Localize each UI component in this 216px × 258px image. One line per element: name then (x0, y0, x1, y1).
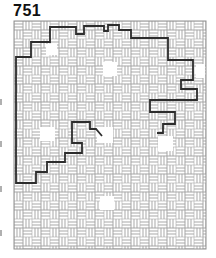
maze-room (103, 62, 117, 76)
maze-image (0, 0, 208, 251)
edge-artifact (0, 230, 2, 236)
edge-artifact (0, 99, 2, 105)
page: 751 (0, 0, 216, 258)
maze-room (158, 136, 173, 151)
maze-room (46, 44, 57, 55)
maze-room (40, 127, 55, 141)
edge-artifact (0, 186, 2, 192)
maze-room (100, 196, 114, 210)
maze-room (97, 127, 113, 143)
edge-artifact (0, 141, 2, 147)
maze-room (196, 64, 205, 78)
